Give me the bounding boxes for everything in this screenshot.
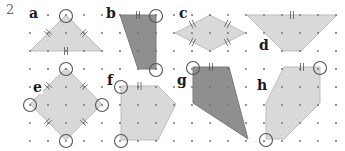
shape-label-b: b xyxy=(105,6,117,20)
grid-dot xyxy=(191,50,193,52)
grid-dot xyxy=(155,104,157,106)
grid-dot xyxy=(281,104,283,106)
grid-dot xyxy=(65,86,67,88)
grid-dot xyxy=(65,32,67,34)
grid-dot xyxy=(173,14,175,16)
shape-f xyxy=(121,86,176,140)
grid-dot xyxy=(137,104,139,106)
shape-b xyxy=(120,15,156,69)
grid-dot xyxy=(137,50,139,52)
grid-dot xyxy=(263,14,265,16)
grid-dot xyxy=(299,86,301,88)
grid-dot xyxy=(209,122,211,124)
grid-dot xyxy=(227,32,229,34)
grid-dot xyxy=(155,86,157,88)
grid-dot xyxy=(317,86,319,88)
grid-dot xyxy=(29,104,31,106)
grid-dot xyxy=(263,140,265,142)
grid-dot xyxy=(335,50,337,52)
grid-dot xyxy=(299,104,301,106)
grid-dot xyxy=(263,68,265,70)
grid-dot xyxy=(299,32,301,34)
grid-dot xyxy=(281,122,283,124)
grid-dot xyxy=(83,68,85,70)
grid-dot xyxy=(335,68,337,70)
grid-dot xyxy=(299,50,301,52)
grid-dot xyxy=(83,50,85,52)
grid-dot xyxy=(101,50,103,52)
grid-dot xyxy=(227,14,229,16)
grid-dot xyxy=(227,50,229,52)
grid-dot xyxy=(191,68,193,70)
grid-dot xyxy=(335,104,337,106)
grid-dot xyxy=(119,50,121,52)
grid-dot xyxy=(317,14,319,16)
grid-dot xyxy=(137,122,139,124)
grid-dot xyxy=(335,86,337,88)
grid-dot xyxy=(191,14,193,16)
grid-dot xyxy=(245,122,247,124)
grid-dot xyxy=(317,68,319,70)
grid-dot xyxy=(83,104,85,106)
shape-label-a: a xyxy=(28,6,39,20)
shape-g xyxy=(193,67,248,139)
grid-dot xyxy=(245,140,247,142)
grid-dot xyxy=(173,50,175,52)
grid-dot xyxy=(137,140,139,142)
grid-dot xyxy=(101,122,103,124)
grid-dot xyxy=(173,32,175,34)
grid-dot xyxy=(101,32,103,34)
grid-dot xyxy=(209,104,211,106)
grid-dot xyxy=(47,68,49,70)
grid-dot xyxy=(155,68,157,70)
grid-dot xyxy=(281,14,283,16)
shape-label-d: d xyxy=(258,38,270,52)
grid-dot xyxy=(47,104,49,106)
grid-dot xyxy=(209,14,211,16)
grid-dot xyxy=(119,86,121,88)
grid-dot xyxy=(101,140,103,142)
grid-dot xyxy=(227,86,229,88)
grid-dot xyxy=(281,68,283,70)
grid-dot xyxy=(227,68,229,70)
grid-dot xyxy=(101,104,103,106)
grid-dot xyxy=(299,140,301,142)
grid-dot xyxy=(65,104,67,106)
grid-dot xyxy=(173,86,175,88)
grid-dot xyxy=(137,32,139,34)
grid-dot xyxy=(245,14,247,16)
grid-dot xyxy=(317,104,319,106)
grid-dot xyxy=(83,32,85,34)
grid-dot xyxy=(119,14,121,16)
grid-dot xyxy=(29,32,31,34)
grid-dot xyxy=(263,32,265,34)
grid-dot xyxy=(173,68,175,70)
grid-dot xyxy=(155,50,157,52)
grid-dot xyxy=(47,14,49,16)
grid-dot xyxy=(263,104,265,106)
grid-dot xyxy=(119,32,121,34)
shape-label-f: f xyxy=(106,73,114,87)
grid-dot xyxy=(29,122,31,124)
grid-dot xyxy=(209,140,211,142)
grid-dot xyxy=(335,122,337,124)
grid-dot xyxy=(29,140,31,142)
grid-dot xyxy=(191,122,193,124)
grid-dot xyxy=(65,140,67,142)
grid-dot xyxy=(335,140,337,142)
grid-dot xyxy=(245,86,247,88)
grid-dot xyxy=(119,122,121,124)
grid-dot xyxy=(245,32,247,34)
grid-dot xyxy=(65,50,67,52)
grid-dot xyxy=(47,50,49,52)
grid-dot xyxy=(317,140,319,142)
grid-dot xyxy=(119,68,121,70)
grid-dot xyxy=(155,14,157,16)
grid-dot xyxy=(245,104,247,106)
grid-dot xyxy=(47,140,49,142)
grid-dot xyxy=(209,32,211,34)
grid-dot xyxy=(191,86,193,88)
grid-dot xyxy=(317,32,319,34)
grid-dot xyxy=(209,86,211,88)
grid-dot xyxy=(335,32,337,34)
